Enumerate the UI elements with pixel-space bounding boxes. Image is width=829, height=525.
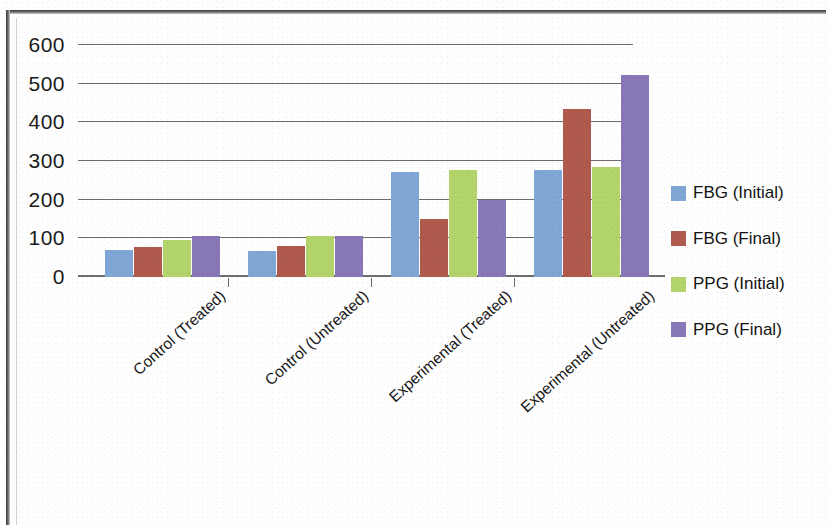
bar [192, 236, 220, 277]
x-axis-category-label: Experimental (Untreated) [517, 287, 658, 416]
legend-label: FBG (Initial) [693, 183, 784, 203]
bar [163, 240, 191, 278]
legend-label: PPG (Initial) [693, 274, 785, 294]
bar [105, 250, 133, 277]
bar [277, 246, 305, 277]
x-axis-category-label: Control (Untreated) [261, 287, 372, 389]
plot-area [78, 40, 665, 277]
legend-label: FBG (Final) [693, 229, 781, 249]
y-axis-tick-label: 400 [5, 110, 65, 134]
bar-group [391, 40, 534, 277]
legend-item: FBG (Final) [671, 230, 781, 248]
y-axis-tick-label: 200 [5, 188, 65, 212]
bar [621, 75, 649, 277]
y-axis-tick-label: 500 [5, 72, 65, 96]
legend-color-swatch [671, 186, 686, 201]
bar-group [248, 40, 391, 277]
bar [134, 247, 162, 277]
bar [534, 170, 562, 277]
bar [563, 109, 591, 277]
legend-color-swatch [671, 322, 686, 337]
legend-color-swatch [671, 231, 686, 246]
y-axis-tick-label: 300 [5, 149, 65, 173]
x-axis-category-label: Experimental (Treated) [386, 287, 515, 406]
x-axis-tick-mark [228, 278, 229, 287]
bar-group [105, 40, 248, 277]
x-axis-tick-mark [371, 278, 372, 287]
legend-item: PPG (Final) [671, 321, 782, 339]
bar [335, 236, 363, 277]
x-axis-category-label: Control (Treated) [130, 287, 229, 379]
legend-label: PPG (Final) [693, 320, 782, 340]
y-axis-tick-label: 600 [5, 33, 65, 57]
bar [592, 167, 620, 277]
y-axis-tick-label: 0 [5, 265, 65, 289]
bar [248, 251, 276, 277]
legend-color-swatch [671, 277, 686, 292]
bar [449, 170, 477, 277]
x-axis-tick-mark [514, 278, 515, 287]
legend-item: FBG (Initial) [671, 184, 784, 202]
bar [478, 200, 506, 277]
bar-group [534, 40, 677, 277]
bar [391, 172, 419, 277]
legend-item: PPG (Initial) [671, 275, 785, 293]
bar [420, 219, 448, 277]
y-axis-tick-label: 100 [5, 226, 65, 250]
bar-chart: 0100200300400500600 Control (Treated)Con… [0, 0, 829, 525]
bar [306, 236, 334, 277]
